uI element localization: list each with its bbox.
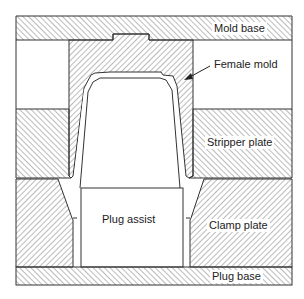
label-plug-base: Plug base xyxy=(210,270,263,283)
label-mold-base: Mold base xyxy=(212,22,267,35)
label-clamp-plate: Clamp plate xyxy=(207,219,270,232)
clamp-plate-left xyxy=(16,179,73,267)
plug-assist xyxy=(81,188,183,267)
label-stripper-plate: Stripper plate xyxy=(205,136,274,149)
label-female-mold: Female mold xyxy=(212,58,280,71)
mold-cross-section-diagram xyxy=(0,0,304,299)
label-plug-assist: Plug assist xyxy=(100,213,157,226)
mold-cavity xyxy=(74,76,184,188)
stripper-plate-left xyxy=(16,109,71,178)
